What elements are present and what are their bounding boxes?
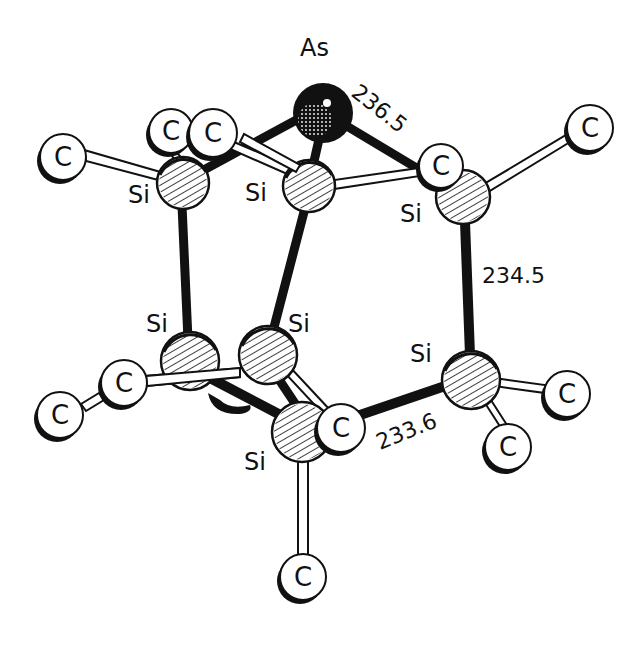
atom-c6: C xyxy=(98,360,147,410)
carbon-label: C xyxy=(54,142,72,172)
carbon-label: C xyxy=(499,432,517,462)
carbon-label: C xyxy=(581,113,599,143)
atom-si6 xyxy=(442,351,500,409)
label-si2: Si xyxy=(245,179,267,207)
bond-si2-si3-c xyxy=(334,168,420,189)
atom-c5: C xyxy=(564,105,613,155)
bond-si1-c1 xyxy=(84,150,164,181)
carbon-label: C xyxy=(294,562,312,592)
atom-c9: C xyxy=(541,371,590,421)
distance-si-si-vertical: 234.5 xyxy=(482,263,545,288)
distance-si-si-bottom: 233.6 xyxy=(373,408,441,455)
atom-as xyxy=(293,83,353,143)
label-as: As xyxy=(300,34,329,62)
molecule-svg: C C C C C C C xyxy=(0,0,639,645)
bond-si1-si4 xyxy=(182,205,188,340)
atom-c1: C xyxy=(37,134,86,184)
bond-distance-labels: 236.5 234.5 233.6 xyxy=(347,79,545,454)
atom-c2: C xyxy=(146,109,193,157)
carbon-label: C xyxy=(162,116,180,146)
label-si4: Si xyxy=(146,310,168,338)
bond-si6-c8 xyxy=(360,385,448,415)
bond-si3-si6 xyxy=(465,222,470,355)
carbon-label: C xyxy=(51,400,69,430)
atom-c7: C xyxy=(34,392,83,442)
label-si6: Si xyxy=(410,340,432,368)
carbon-label: C xyxy=(558,379,576,409)
carbon-label: C xyxy=(204,118,222,148)
label-si5: Si xyxy=(288,310,310,338)
atom-c11: C xyxy=(277,554,326,604)
molecule-diagram: C C C C C C C xyxy=(0,0,639,645)
label-si1: Si xyxy=(128,181,150,209)
bond-si7-c11 xyxy=(298,460,308,555)
atom-c10: C xyxy=(482,424,531,474)
bond-si3-c5 xyxy=(484,135,570,192)
atom-si1 xyxy=(157,157,209,209)
carbon-label: C xyxy=(332,413,350,443)
bond-si6-c9 xyxy=(494,378,545,393)
label-si3: Si xyxy=(400,200,422,228)
label-si7: Si xyxy=(244,448,266,476)
carbon-label: C xyxy=(432,151,450,181)
carbon-label: C xyxy=(115,368,133,398)
